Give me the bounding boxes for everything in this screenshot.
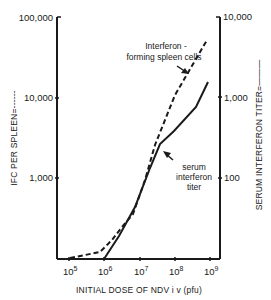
left-y-axis-title: IFC PER SPLEEN=------ [9,90,19,186]
right-y-axis-title: SERUM INTERFERON TITER=——— [254,59,264,210]
right-tick-label: 10,000 [223,11,252,22]
x-tick-label: 105 [63,265,78,277]
annotation-serum-line2: interferon [176,172,212,182]
annotation-serum: serum interferon titer [163,151,212,192]
arrow-icon [163,151,173,160]
x-tick-label: 109 [204,265,219,277]
left-tick-label: 100,000 [19,12,53,23]
annotation-serum-line3: titer [187,182,201,192]
x-tick-label: 108 [169,265,184,277]
right-tick-label: 1,000 [224,92,248,103]
left-tick-label: 1,000 [29,172,53,183]
right-tick-labels: 10,000 1,000 100 [223,11,252,183]
x-tick-label: 107 [134,265,149,277]
x-axis-title: INITIAL DOSE OF NDV i v (pfu) [76,285,202,295]
left-tick-label: 10,000 [24,92,53,103]
x-tick-labels: 105 106 107 108 109 [63,265,219,277]
annotation-serum-line1: serum [182,162,206,172]
right-tick-label: 100 [224,172,240,183]
arrow-icon [177,66,189,74]
annotation-ifc: Interferon - forming spleen cells [126,41,201,74]
annotation-ifc-line1: Interferon - [145,41,187,51]
left-tick-labels: 100,000 10,000 1,000 [19,12,53,183]
x-tick-label: 106 [98,265,113,277]
annotation-ifc-line2: forming spleen cells [126,52,201,62]
chart-figure: 100,000 10,000 1,000 10,000 1,000 100 10… [0,0,271,300]
